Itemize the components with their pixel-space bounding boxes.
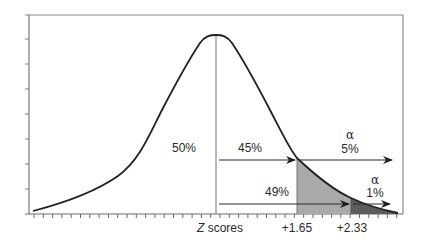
- mean-to-233-label: 49%: [265, 186, 289, 198]
- distribution-diagram: 50% 45% α 5% 49% α 1% Z scores +1.65 +2.…: [0, 0, 422, 250]
- tick-label-165: +1.65: [282, 222, 312, 234]
- left-half-label: 50%: [172, 142, 196, 154]
- chart-canvas: [0, 0, 422, 250]
- mean-to-165-label: 45%: [238, 142, 262, 154]
- chart-frame: [25, 15, 403, 214]
- alpha-1-label: 1%: [366, 187, 383, 199]
- x-axis-label: Z scores: [197, 222, 243, 234]
- alpha-5-label: 5%: [341, 143, 358, 155]
- x-axis-ticks: [34, 214, 397, 218]
- x-axis-label-rest: scores: [204, 221, 243, 235]
- tick-label-233: +2.33: [337, 222, 367, 234]
- alpha-5-symbol: α: [346, 129, 354, 141]
- alpha-1-symbol: α: [371, 174, 379, 186]
